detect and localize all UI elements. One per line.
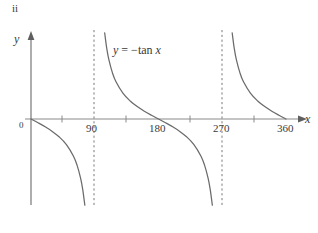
graph-canvas (0, 0, 318, 233)
origin-label: 0 (19, 121, 24, 130)
equation-equals: = (118, 43, 131, 57)
curve-equation-label: y = −tan x (113, 44, 161, 56)
figure-tan-graph: ii y x 0 y = −tan x 90 180 270 360 (0, 0, 318, 233)
x-tick-label-270: 270 (213, 123, 230, 134)
x-tick-label-90: 90 (86, 123, 97, 134)
equation-variable: x (156, 43, 161, 57)
x-tick-label-360: 360 (277, 123, 294, 134)
equation-function: −tan (131, 43, 155, 57)
y-axis-arrowhead (28, 31, 35, 40)
part-label: ii (12, 3, 18, 14)
curve-branch-270-360 (232, 33, 286, 119)
x-axis-label: x (305, 113, 310, 125)
y-axis-label: y (14, 33, 19, 45)
x-tick-label-180: 180 (149, 123, 166, 134)
curve-branch-0-90 (31, 119, 85, 205)
